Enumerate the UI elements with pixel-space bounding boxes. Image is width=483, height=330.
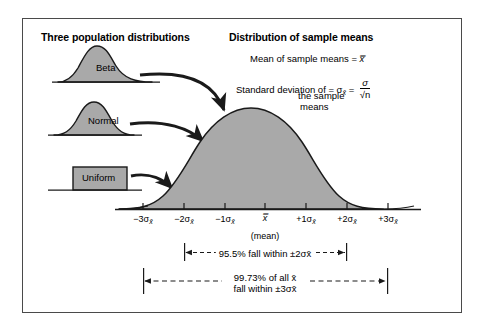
axis-tick-label: +3σx̄ (378, 214, 397, 225)
equation-sd-numerator: σ (360, 78, 371, 88)
equation-sd-line3: means (300, 101, 329, 112)
equation-sd-equals: = (349, 84, 355, 95)
population-label-beta: Beta (96, 62, 116, 73)
equation-sd-line2: the sample (298, 90, 344, 101)
axis-tick-label-mean: x̿ (263, 213, 268, 223)
annotation-99-percent-line2: fall within ±3σx̄ (231, 283, 300, 294)
axis-tick-label: +2σx̄ (337, 214, 356, 225)
axis-tick-label: −1σx̄ (215, 214, 234, 225)
annotation-99-percent-line1: 99.73% of all x̄ (231, 272, 299, 283)
page-title-populations: Three population distributions (41, 31, 190, 43)
population-label-uniform: Uniform (82, 172, 115, 183)
axis-caption: (mean) (251, 231, 280, 241)
page-title-sample-means: Distribution of sample means (229, 31, 373, 43)
arrow-normal-icon (130, 123, 203, 141)
arrow-beta-icon (140, 74, 224, 110)
equation-sd-fraction: σ √n (360, 78, 371, 100)
axis-tick-label: −2σx̄ (174, 214, 193, 225)
annotation-95-percent: 95.5% fall within ±2σx̄ (216, 248, 314, 259)
axis-tick-label: +1σx̄ (296, 214, 315, 225)
equation-mean-text: Mean of sample means = (250, 53, 357, 64)
equation-mean-of-sample-means: Mean of sample means = x̿ (250, 53, 364, 64)
equation-mean-symbol: x̿ (360, 53, 365, 64)
population-label-normal: Normal (88, 115, 119, 126)
arrow-uniform-icon (131, 175, 172, 188)
equation-sd-denominator: √n (360, 88, 371, 100)
axis-tick-label: −3σx̄ (133, 214, 152, 225)
